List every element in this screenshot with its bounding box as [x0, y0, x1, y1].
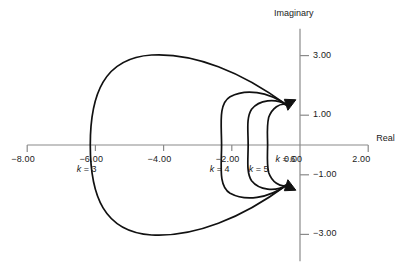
curve-label-k5: k = 5 — [249, 164, 269, 174]
y-tick-label: −3.00 — [313, 228, 337, 238]
y-tick-label: 3.00 — [313, 50, 331, 60]
y-tick-label: 1.00 — [313, 109, 331, 119]
x-axis-title: Real — [376, 133, 395, 143]
plot-canvas — [0, 0, 419, 279]
y-axis-title: Imaginary — [274, 8, 314, 18]
x-tick-label: −4.00 — [148, 154, 172, 164]
x-tick-label: −2.00 — [216, 154, 240, 164]
arrowhead-up — [284, 180, 296, 191]
curve-label-k6: k = 6 — [275, 154, 295, 164]
x-tick-label: −8.00 — [11, 154, 35, 164]
curve-label-k4: k = 4 — [210, 164, 230, 174]
arrowhead-down — [284, 99, 296, 110]
nyquist-plot: Imaginary Real −8.00−6.00−4.00−2.000.002… — [0, 0, 419, 279]
y-tick-label: −1.00 — [313, 169, 337, 179]
curve-label-k3: k = 3 — [77, 164, 97, 174]
x-tick-label: −6.00 — [79, 154, 103, 164]
x-tick-label: 2.00 — [352, 154, 370, 164]
